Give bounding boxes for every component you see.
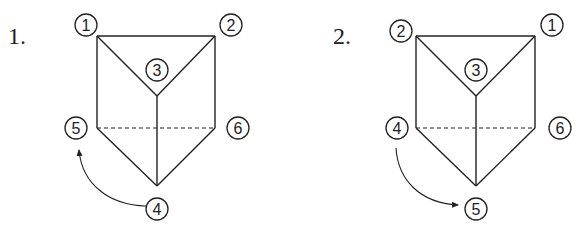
svg-text:3: 3	[472, 62, 481, 79]
vertex-label-center-top: 3	[146, 59, 168, 81]
figure-number: 1.	[8, 23, 26, 49]
vertex-label-bottom: 5	[465, 198, 487, 220]
svg-text:2: 2	[397, 23, 406, 40]
vertex-label-mid-left: 4	[386, 117, 408, 139]
svg-text:4: 4	[393, 120, 402, 137]
svg-text:5: 5	[472, 201, 481, 218]
vertex-label-mid-right: 6	[549, 117, 571, 139]
svg-text:6: 6	[234, 120, 243, 137]
svg-text:5: 5	[72, 120, 81, 137]
vertex-label-mid-right: 6	[227, 117, 249, 139]
svg-text:3: 3	[153, 62, 162, 79]
svg-text:1: 1	[82, 17, 91, 34]
vertex-label-top-right: 1	[541, 14, 563, 36]
vertex-label-center-top: 3	[465, 59, 487, 81]
vertex-label-top-left: 2	[390, 20, 412, 42]
diagram-canvas: 1. 1 2 3 5	[0, 0, 576, 244]
svg-text:4: 4	[153, 201, 162, 218]
figure-2: 2. 2 1 3 4	[333, 14, 571, 220]
figure-number: 2.	[333, 23, 351, 49]
vertex-label-top-left: 1	[75, 14, 97, 36]
svg-text:1: 1	[548, 17, 557, 34]
figure-1: 1. 1 2 3 5	[8, 14, 249, 220]
svg-text:6: 6	[556, 120, 565, 137]
vertex-label-bottom: 4	[146, 198, 168, 220]
rotation-arrow	[79, 150, 146, 206]
vertex-label-top-right: 2	[220, 14, 242, 36]
rotation-arrow	[396, 148, 458, 205]
vertex-label-mid-left: 5	[65, 117, 87, 139]
svg-text:2: 2	[227, 17, 236, 34]
